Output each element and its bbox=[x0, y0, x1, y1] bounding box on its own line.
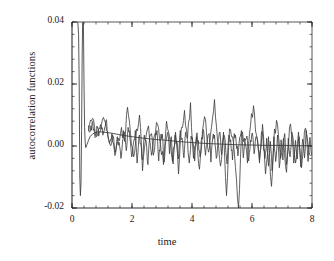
autocorrelation-plot bbox=[0, 0, 334, 261]
chart-root: autocorrelation functions time 0.040.020… bbox=[0, 0, 334, 261]
y-axis-label: autocorrelation functions bbox=[26, 11, 37, 201]
x-tick-label: 8 bbox=[297, 214, 327, 224]
x-tick-label: 0 bbox=[57, 214, 87, 224]
y-tick-label: 0.02 bbox=[20, 77, 64, 87]
plot-background bbox=[0, 0, 334, 261]
x-tick-label: 2 bbox=[117, 214, 147, 224]
x-tick-label: 6 bbox=[237, 214, 267, 224]
y-tick-label: -0.02 bbox=[20, 201, 64, 211]
y-tick-label: 0.04 bbox=[20, 15, 64, 25]
y-tick-label: 0.00 bbox=[20, 139, 64, 149]
x-tick-label: 4 bbox=[177, 214, 207, 224]
x-axis-label: time bbox=[0, 236, 334, 247]
